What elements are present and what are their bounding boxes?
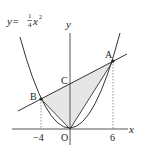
parabola-diagram: y= 1 4 x 2 y x O A B C −4 6 [0, 0, 142, 152]
point-c-label: C [61, 75, 68, 86]
equation-lhs: y= [6, 15, 19, 27]
equation-exp: 2 [39, 14, 42, 20]
equation-num: 1 [28, 12, 32, 20]
shaded-triangle-oab [41, 61, 113, 129]
point-b-dot [39, 97, 42, 100]
equation-var: x [32, 15, 38, 27]
x-axis-label: x [128, 123, 134, 135]
equation-den: 4 [28, 21, 32, 29]
y-axis-label: y [65, 18, 71, 30]
point-b-label: B [30, 91, 37, 102]
tick-neg-four: −4 [33, 132, 44, 143]
tick-six: 6 [110, 132, 115, 143]
origin-label: O [61, 132, 68, 143]
point-a-label: A [105, 49, 113, 60]
